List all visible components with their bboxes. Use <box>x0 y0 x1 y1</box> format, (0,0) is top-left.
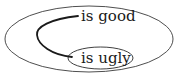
inner-set-label: is ugly <box>81 49 131 67</box>
euler-diagram: is good is ugly <box>0 0 179 79</box>
connector-curve <box>37 16 78 57</box>
outer-set-label: is good <box>81 7 136 25</box>
